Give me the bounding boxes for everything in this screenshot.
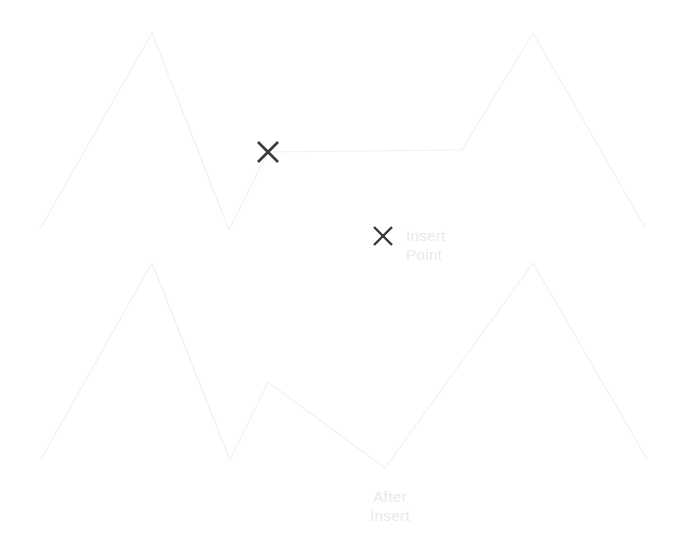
diagram-canvas: Insert Point After Insert xyxy=(0,0,679,558)
insert-point-label: Insert Point xyxy=(406,226,446,264)
polyline-after-insert xyxy=(41,263,647,468)
legend-marker-x xyxy=(374,227,392,245)
polyline-before-insert xyxy=(40,33,646,230)
after-insert-label: After Insert xyxy=(340,487,440,525)
polyline-diagram xyxy=(0,0,679,558)
